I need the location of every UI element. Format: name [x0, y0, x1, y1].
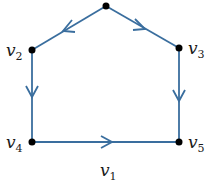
node-v5 — [176, 139, 183, 146]
node-v3 — [176, 45, 183, 52]
node-v2 — [29, 47, 36, 54]
label-v3: v3 — [188, 38, 205, 61]
node-top — [103, 3, 110, 10]
label-v5: v5 — [188, 132, 205, 155]
caption-v1: v1 — [100, 160, 117, 183]
label-v2: v2 — [6, 40, 23, 63]
label-v4: v4 — [6, 132, 23, 155]
nodes — [29, 3, 183, 146]
edges — [26, 6, 185, 148]
edge-top-v2 — [32, 6, 106, 50]
node-v4 — [29, 139, 36, 146]
graph-diagram: v2 v3 v4 v5 v1 — [0, 0, 206, 184]
